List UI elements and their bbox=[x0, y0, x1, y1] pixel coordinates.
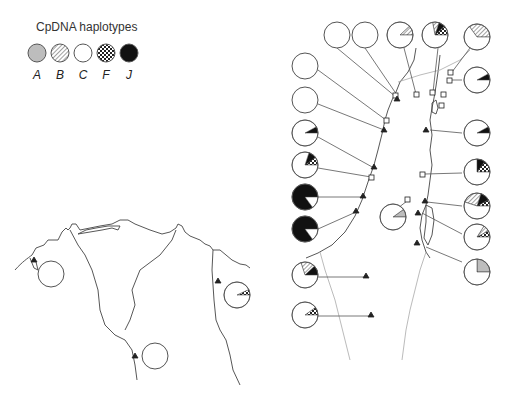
site-triangle bbox=[363, 273, 369, 278]
site-square bbox=[441, 92, 446, 97]
pie-p6 bbox=[292, 53, 318, 79]
right-coastline-east bbox=[420, 55, 440, 258]
legend-title: CpDNA haplotypes bbox=[36, 20, 137, 34]
site-triangle bbox=[368, 312, 374, 317]
right-gulf-inlet bbox=[424, 205, 434, 245]
right-border-west bbox=[320, 252, 350, 360]
pie-p12 bbox=[464, 159, 490, 185]
pie-p23 bbox=[142, 343, 168, 369]
pie-p10 bbox=[464, 120, 490, 146]
site-square bbox=[430, 90, 435, 95]
pie-p11 bbox=[292, 152, 318, 178]
site-square bbox=[384, 118, 389, 123]
legend-label-j: J bbox=[119, 68, 139, 82]
right-lake bbox=[432, 100, 438, 114]
site-triangle bbox=[215, 278, 221, 283]
site-square bbox=[369, 175, 374, 180]
pie-p7 bbox=[292, 87, 318, 113]
pie-p21 bbox=[38, 261, 64, 287]
legend-label-f: F bbox=[96, 68, 116, 82]
pie-p13 bbox=[292, 184, 318, 210]
pie-p2 bbox=[352, 22, 378, 48]
site-triangle bbox=[423, 127, 429, 132]
site-triangle bbox=[31, 257, 37, 262]
right-border-east bbox=[402, 252, 426, 360]
site-triangle bbox=[415, 210, 421, 215]
pie-p1 bbox=[324, 22, 350, 48]
haplotype-map-figure bbox=[0, 0, 506, 394]
pie-p18 bbox=[464, 259, 490, 285]
site-square bbox=[414, 92, 419, 97]
pie-p17 bbox=[464, 224, 490, 250]
pie-p22 bbox=[224, 282, 250, 308]
legend-label-b: B bbox=[50, 68, 70, 82]
legend-swatch-a bbox=[28, 44, 46, 62]
site-triangle bbox=[360, 193, 366, 198]
pie-p19 bbox=[292, 262, 318, 288]
left-canal bbox=[212, 250, 240, 385]
pie-p14 bbox=[464, 193, 490, 219]
legend-swatch-c bbox=[74, 44, 92, 62]
pie-p3 bbox=[387, 22, 413, 48]
site-square bbox=[405, 197, 410, 202]
left-lagoon bbox=[78, 226, 120, 234]
legend-swatch-j bbox=[120, 44, 138, 62]
legend-swatch-b bbox=[51, 44, 69, 62]
left-river-west bbox=[70, 230, 137, 380]
pie-p8 bbox=[464, 67, 490, 93]
connector-lines bbox=[318, 48, 470, 316]
left-map bbox=[15, 220, 250, 385]
pie-p9 bbox=[292, 120, 318, 146]
site-square bbox=[420, 172, 425, 177]
site-square bbox=[447, 78, 452, 83]
legend-label-a: A bbox=[27, 68, 47, 82]
pie-p15 bbox=[380, 204, 406, 230]
site-square bbox=[448, 70, 453, 75]
pie-p4 bbox=[422, 22, 448, 48]
legend-swatch-f bbox=[97, 44, 115, 62]
site-square bbox=[439, 103, 444, 108]
pie-p16 bbox=[292, 216, 318, 242]
pie-p5 bbox=[464, 24, 490, 50]
left-river-east bbox=[125, 230, 176, 330]
legend bbox=[28, 44, 138, 62]
site-triangle bbox=[414, 240, 420, 245]
legend-label-c: C bbox=[73, 68, 93, 82]
pie-p20 bbox=[292, 302, 318, 328]
